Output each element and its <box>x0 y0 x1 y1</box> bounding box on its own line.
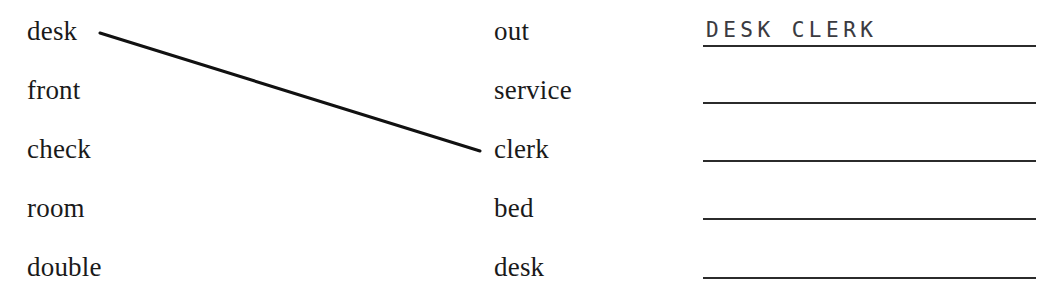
answer-line[interactable] <box>703 218 1036 220</box>
answer-line[interactable] <box>703 160 1036 162</box>
word-option[interactable]: service <box>494 77 572 104</box>
word-option[interactable]: clerk <box>494 136 549 163</box>
answer-lines-area: DESK CLERK <box>703 0 1036 303</box>
second-word-column: out service clerk bed desk <box>494 0 694 303</box>
answer-line[interactable]: DESK CLERK <box>703 45 1036 47</box>
word-option[interactable]: room <box>27 195 85 222</box>
answer-handwriting: DESK CLERK <box>706 18 877 42</box>
word-option[interactable]: front <box>27 77 80 104</box>
word-option[interactable]: desk <box>27 18 77 45</box>
word-option[interactable]: check <box>27 136 91 163</box>
matching-worksheet: desk front check room double out service… <box>0 0 1055 303</box>
word-option[interactable]: desk <box>494 254 544 281</box>
word-option[interactable]: out <box>494 18 529 45</box>
first-word-column: desk front check room double <box>27 0 227 303</box>
word-option[interactable]: bed <box>494 195 534 222</box>
answer-line[interactable] <box>703 102 1036 104</box>
word-option[interactable]: double <box>27 254 102 281</box>
answer-line[interactable] <box>703 277 1036 279</box>
